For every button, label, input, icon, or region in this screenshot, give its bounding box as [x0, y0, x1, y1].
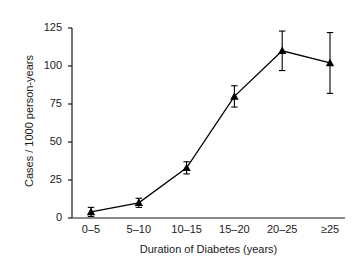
chart-figure: Cases / 1000 person-years 125 100 75 50 …	[0, 0, 360, 264]
plot-area	[0, 0, 360, 264]
